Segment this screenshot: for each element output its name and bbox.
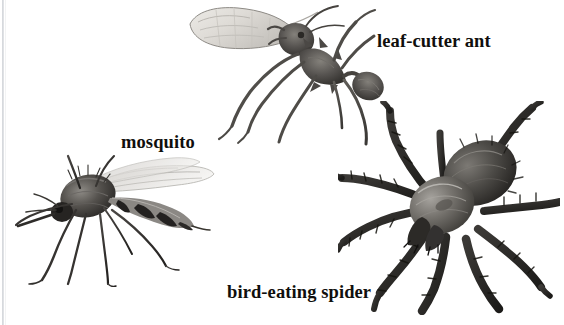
illustration-plate: leaf-cutter ant mosquito bird-eating spi…	[0, 0, 564, 325]
label-leaf-cutter-ant: leaf-cutter ant	[377, 31, 491, 52]
label-bird-eating-spider: bird-eating spider	[227, 282, 371, 303]
scan-artifact-line	[2, 0, 4, 325]
mosquito-figure	[14, 152, 219, 287]
scan-artifact-line-secondary	[5, 0, 6, 325]
label-mosquito: mosquito	[121, 132, 195, 153]
bird-eating-spider-figure	[338, 101, 560, 315]
mosquito-abdomen-shape	[108, 197, 210, 230]
